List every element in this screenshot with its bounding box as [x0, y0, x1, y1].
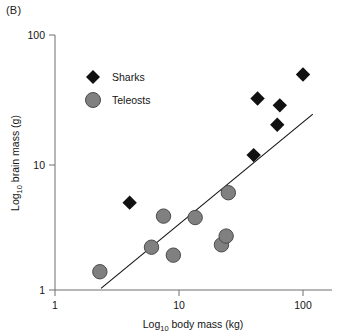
- y-tick-label-1: 1: [39, 284, 45, 296]
- legend-label-sharks: Sharks: [112, 71, 145, 83]
- y-axis-title-base: Log: [9, 193, 21, 211]
- data-point: [250, 91, 264, 105]
- data-point: [156, 209, 170, 223]
- y-tick-label-100: 100: [27, 29, 45, 41]
- y-axis-title-rest: brain mass (g): [9, 115, 21, 185]
- data-point: [296, 67, 310, 81]
- data-point: [246, 148, 260, 162]
- data-point: [273, 98, 287, 112]
- legend: Sharks Teleosts: [86, 70, 151, 108]
- scatter-plot: 100 10 1 1 10 100 Log10 body mass (kg) L…: [0, 0, 339, 333]
- data-point: [144, 240, 158, 254]
- data-point: [188, 210, 202, 224]
- x-axis-title-rest: body mass (kg): [169, 318, 244, 330]
- x-axis-title-base: Log: [143, 318, 161, 330]
- data-point: [219, 229, 233, 243]
- legend-marker-sharks: [86, 70, 100, 84]
- y-axis-title: Log10 brain mass (g): [9, 115, 24, 211]
- series-sharks: [122, 67, 310, 210]
- data-point: [221, 186, 235, 200]
- legend-marker-teleosts: [86, 93, 101, 108]
- x-tick-label-100: 100: [294, 299, 312, 311]
- legend-label-teleosts: Teleosts: [112, 94, 151, 106]
- data-point: [93, 265, 107, 279]
- data-point: [122, 195, 136, 209]
- data-point: [166, 248, 180, 262]
- x-axis-title-sub: 10: [160, 324, 168, 333]
- figure-panel-b: (B) 100 10 1 1 10 100 Log10 body mass (k…: [0, 0, 339, 333]
- axis-y: [49, 35, 55, 290]
- y-axis-title-sub: 10: [15, 185, 24, 193]
- axis-x: [55, 290, 332, 296]
- y-tick-label-10: 10: [33, 159, 45, 171]
- x-tick-label-1: 1: [52, 299, 58, 311]
- x-axis-title: Log10 body mass (kg): [143, 318, 244, 333]
- series-teleosts: [93, 186, 236, 279]
- x-tick-label-10: 10: [173, 299, 185, 311]
- data-point: [270, 118, 284, 132]
